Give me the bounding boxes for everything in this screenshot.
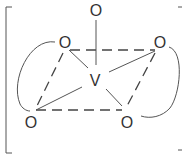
atom-o-upper-left: O xyxy=(59,34,71,51)
solid-bond-ll xyxy=(36,87,82,110)
dashed-bond-left xyxy=(35,53,63,110)
left-bracket xyxy=(6,7,12,153)
solid-bond-ur xyxy=(109,51,155,72)
arc-left xyxy=(17,42,55,111)
vanadium-complex-diagram: O O O V O O xyxy=(0,0,187,157)
solid-bond-lr xyxy=(106,89,122,106)
atom-v-center: V xyxy=(90,72,101,89)
solid-bond-ul xyxy=(69,50,88,68)
atom-o-lower-right: O xyxy=(121,114,133,131)
atom-o-upper-right: O xyxy=(154,34,166,51)
atom-o-top: O xyxy=(90,2,102,19)
dashed-bond-right xyxy=(126,53,155,108)
atom-o-lower-left: O xyxy=(25,114,37,131)
arc-right xyxy=(141,47,179,117)
